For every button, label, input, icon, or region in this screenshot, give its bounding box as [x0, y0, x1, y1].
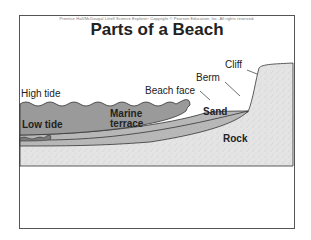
label-cliff: Cliff	[225, 59, 242, 70]
label-beach-face: Beach face	[145, 85, 195, 96]
berm-leader	[225, 82, 240, 96]
label-rock: Rock	[223, 133, 247, 144]
label-low-tide: Low tide	[22, 119, 63, 130]
label-high-tide: High tide	[21, 88, 60, 99]
label-sand: Sand	[203, 106, 227, 117]
label-berm: Berm	[196, 72, 220, 83]
cliff-leader	[247, 70, 257, 74]
beach-face-leader	[200, 91, 210, 100]
label-terrace: terrace	[110, 118, 143, 129]
